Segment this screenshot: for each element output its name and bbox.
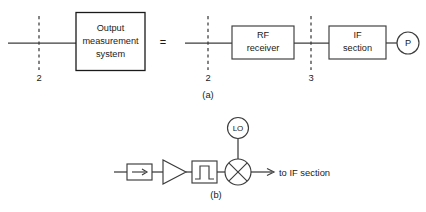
output-measurement-system-label-line1: Output [97, 23, 125, 33]
reference-plane-2-right-label: 2 [205, 72, 210, 83]
bandpass-filter-block [192, 161, 217, 183]
figure-container: 2 Output measurement system = 2 RF recei… [0, 0, 426, 212]
if-section-label-line2: section [343, 43, 372, 53]
local-oscillator-label: LO [233, 124, 244, 133]
reference-plane-2-left-label: 2 [36, 72, 41, 83]
reference-plane-3-label: 3 [308, 72, 313, 83]
to-if-section-label: to IF section [279, 167, 330, 178]
amplifier-triangle-icon [163, 160, 186, 184]
if-section-label-line1: IF [353, 30, 362, 40]
panel-a-left: 2 Output measurement system [8, 13, 145, 84]
panel-a-right: 2 RF receiver 3 IF section P [185, 16, 419, 83]
output-measurement-system-label-line3: system [96, 49, 125, 59]
rf-receiver-label-line2: receiver [247, 43, 280, 53]
output-measurement-system-label-line2: measurement [82, 36, 139, 46]
panel-b: LO to IF section [114, 118, 330, 186]
equals-sign: = [160, 36, 166, 48]
panel-a-caption: (a) [202, 89, 213, 100]
rf-receiver-label-line1: RF [257, 30, 270, 40]
panel-b-caption: (b) [210, 189, 221, 200]
power-meter-label: P [405, 38, 411, 48]
diagram-canvas: 2 Output measurement system = 2 RF recei… [0, 0, 426, 212]
